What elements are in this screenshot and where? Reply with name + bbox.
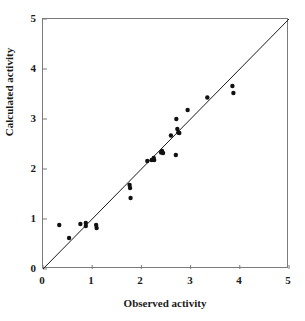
data-point xyxy=(94,226,98,230)
data-point xyxy=(230,84,234,88)
data-point xyxy=(78,222,82,226)
plot-area xyxy=(42,18,288,268)
x-tick-label-5: 5 xyxy=(280,275,296,286)
data-point xyxy=(185,108,189,112)
plot-canvas xyxy=(43,19,289,269)
data-point xyxy=(231,91,235,95)
data-point xyxy=(174,117,178,121)
y-axis-title: Calculated activity xyxy=(3,48,15,136)
data-point xyxy=(128,196,132,200)
data-point xyxy=(174,153,178,157)
y-tick-label-2: 2 xyxy=(20,163,36,174)
y-tick-label-4: 4 xyxy=(20,63,36,74)
x-tick-label-3: 3 xyxy=(182,275,198,286)
x-axis-title: Observed activity xyxy=(42,297,288,309)
data-point xyxy=(169,133,173,137)
data-point xyxy=(128,186,132,190)
x-tick-label-0: 0 xyxy=(34,275,50,286)
x-tick-label-1: 1 xyxy=(83,275,99,286)
data-point xyxy=(152,158,156,162)
y-tick-label-1: 1 xyxy=(20,213,36,224)
data-point xyxy=(161,151,165,155)
data-point xyxy=(84,224,88,228)
data-point xyxy=(67,236,71,240)
y-axis-title-wrapper: Calculated activity xyxy=(0,32,17,152)
y-tick-label-5: 5 xyxy=(20,13,36,24)
data-point xyxy=(57,223,61,227)
data-point xyxy=(177,131,181,135)
data-point xyxy=(205,95,209,99)
x-tick-label-2: 2 xyxy=(132,275,148,286)
data-point xyxy=(145,159,149,163)
scatter-plot-figure: 5 4 3 2 1 0 0 1 2 3 4 5 Observed activit… xyxy=(0,0,305,321)
x-tick-label-4: 4 xyxy=(231,275,247,286)
identity-reference-line xyxy=(43,19,289,269)
data-point-group xyxy=(57,84,236,240)
y-tick-label-3: 3 xyxy=(20,113,36,124)
y-tick-label-0: 0 xyxy=(20,263,36,274)
